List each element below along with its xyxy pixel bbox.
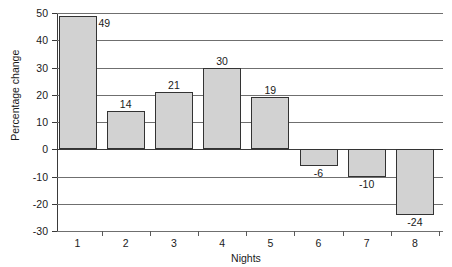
bar-value-label-4: 30 [202, 56, 242, 67]
bar-4 [203, 68, 241, 150]
bar-value-label-6: -6 [299, 168, 339, 179]
y-tick-label--10: -10 [0, 172, 48, 183]
bar-3 [155, 92, 193, 149]
bar-value-label-1: 49 [99, 18, 139, 29]
y-tick-label-0: 0 [0, 144, 48, 155]
x-tick-mark-6 [343, 231, 344, 236]
bar-value-label-8: -24 [395, 217, 435, 228]
x-tick-label-6: 6 [316, 238, 322, 249]
bar-value-label-7: -10 [347, 179, 387, 190]
x-tick-label-1: 1 [75, 238, 81, 249]
bar-2 [107, 111, 145, 149]
bar-1 [59, 16, 97, 150]
bar-value-label-3: 21 [154, 80, 194, 91]
x-tick-mark-5 [294, 231, 295, 236]
y-tick-label-10: 10 [0, 117, 48, 128]
gridline-y--30 [57, 231, 443, 232]
y-tick-label--30: -30 [0, 226, 48, 237]
x-tick-mark-3 [198, 231, 199, 236]
y-tick-label-30: 30 [0, 63, 48, 74]
y-tick-mark--30 [52, 231, 57, 232]
x-tick-label-8: 8 [412, 238, 418, 249]
x-tick-mark-2 [150, 231, 151, 236]
x-tick-label-3: 3 [171, 238, 177, 249]
bar-6 [300, 149, 338, 165]
bar-value-label-2: 14 [106, 99, 146, 110]
y-tick-label-40: 40 [0, 35, 48, 46]
bar-8 [396, 149, 434, 214]
x-tick-mark-7 [391, 231, 392, 236]
x-tick-mark-4 [246, 231, 247, 236]
x-tick-mark-1 [102, 231, 103, 236]
y-tick-label--20: -20 [0, 199, 48, 210]
x-tick-label-5: 5 [267, 238, 273, 249]
percentage-change-bar-chart: Percentage change 50403020100-10-20-30 4… [0, 0, 452, 267]
bar-5 [251, 97, 289, 149]
x-tick-label-4: 4 [219, 238, 225, 249]
bar-7 [348, 149, 386, 176]
y-tick-label-20: 20 [0, 90, 48, 101]
x-tick-label-7: 7 [364, 238, 370, 249]
y-tick-label-50: 50 [0, 8, 48, 19]
plot-area: 4914213019-6-10-24 [57, 13, 443, 231]
x-axis-title-text: Nights [231, 252, 261, 264]
x-axis-title: Nights [0, 253, 452, 264]
x-tick-label-2: 2 [123, 238, 129, 249]
bar-value-label-5: 19 [250, 85, 290, 96]
x-tick-mark-8 [439, 231, 440, 236]
